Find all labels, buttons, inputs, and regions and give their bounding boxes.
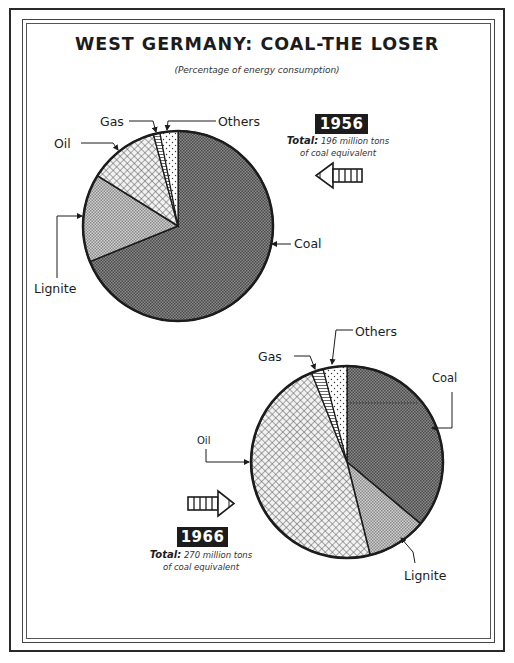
total-value-1966: 270 million tons (184, 550, 252, 560)
leader-gas-1966 (294, 356, 315, 369)
year-badge-1966: 1966 (177, 527, 228, 547)
leader-others-1966 (332, 330, 353, 364)
total-unit-1956: of coal equivalent (300, 148, 376, 158)
leader-others-1956 (167, 121, 216, 130)
pie-1966: Others Gas Coal Oil Lignite (188, 324, 457, 583)
leader-lignite-1956 (57, 216, 82, 278)
label-others-1966: Others (355, 324, 397, 339)
total-1966: Total: 270 million tons of coal equivale… (138, 549, 264, 573)
leader-gas-1956 (129, 121, 156, 132)
label-lignite-1966: Lignite (404, 568, 447, 583)
total-1956: Total: 196 million tons of coal equivale… (276, 135, 400, 159)
total-label-1956: Total: (287, 135, 318, 146)
total-unit-1966: of coal equivalent (163, 562, 239, 572)
arrow-left-icon (316, 163, 362, 188)
leader-oil-1956 (81, 143, 118, 150)
total-label-1966: Total: (150, 549, 181, 560)
label-oil-1966: Oil (197, 435, 210, 446)
total-value-1956: 196 million tons (321, 136, 389, 146)
label-coal-1956: Coal (294, 236, 322, 251)
leader-oil-1966 (206, 449, 249, 462)
leader-lignite-1966 (401, 538, 415, 563)
label-lignite-1956: Lignite (34, 281, 77, 296)
label-gas-1956: Gas (100, 114, 124, 129)
arrow-right-icon (188, 491, 234, 516)
label-coal-1966: Coal (432, 371, 457, 385)
label-oil-1956: Oil (54, 136, 71, 151)
label-others-1956: Others (218, 114, 260, 129)
year-badge-1956: 1956 (315, 114, 368, 134)
label-gas-1966: Gas (258, 349, 282, 364)
